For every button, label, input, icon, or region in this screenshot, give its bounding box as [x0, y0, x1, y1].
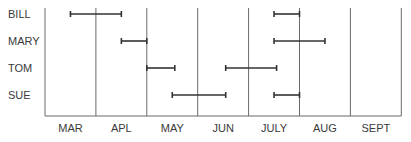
interval-bar: [274, 92, 299, 98]
month-label: APL: [111, 122, 132, 134]
gantt-chart: BILLMARYTOMSUE MARAPLMAYJUNJULYAUGSEPT: [0, 0, 411, 142]
month-label: JULY: [261, 122, 288, 134]
grid-lines: [45, 8, 401, 116]
month-label: MAY: [161, 122, 185, 134]
month-label: MAR: [58, 122, 83, 134]
interval-bar: [226, 65, 277, 71]
month-label: JUN: [212, 122, 233, 134]
row-label: MARY: [8, 35, 40, 47]
row-labels: BILLMARYTOMSUE: [8, 8, 40, 101]
interval-bar: [121, 38, 146, 44]
row-label: TOM: [8, 62, 32, 74]
row-label: BILL: [8, 8, 31, 20]
month-label: SEPT: [361, 122, 390, 134]
month-label: AUG: [313, 122, 337, 134]
month-labels: MARAPLMAYJUNJULYAUGSEPT: [58, 122, 390, 134]
interval-bar: [172, 92, 225, 98]
interval-bar: [147, 65, 175, 71]
interval-bar: [274, 11, 299, 17]
row-label: SUE: [8, 89, 31, 101]
